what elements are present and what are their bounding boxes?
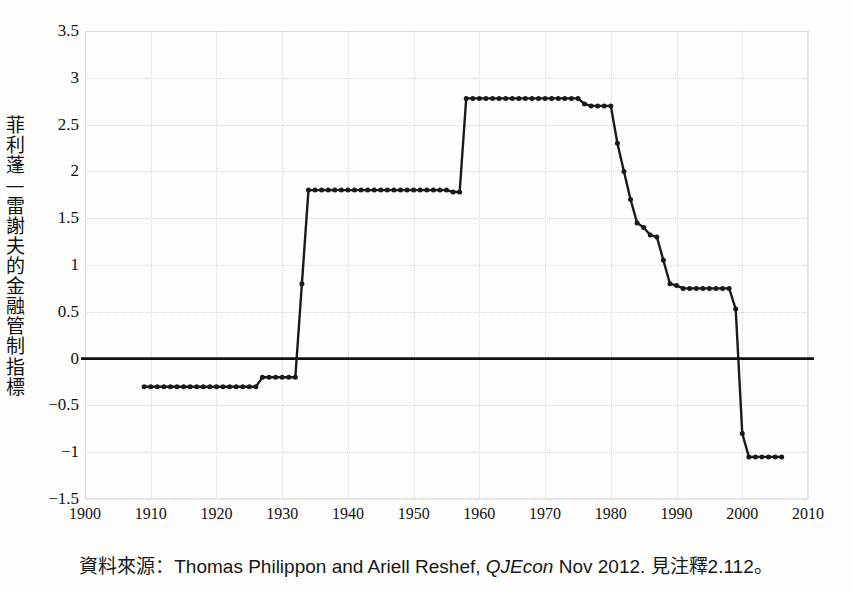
data-point-marker [727,286,732,291]
data-point-marker [667,281,672,286]
data-point-marker [437,188,442,193]
x-tick-label: 2000 [712,505,772,523]
data-point-marker [582,102,587,107]
data-point-marker [411,188,416,193]
data-point-marker [529,96,534,101]
data-point-marker [700,286,705,291]
data-point-marker [267,375,272,380]
y-axis-title: 菲利蓬—雷謝夫的金融管制指標 [2,115,28,397]
data-point-marker [385,188,390,193]
y-tick-label: −1 [33,442,79,462]
series-layer [85,31,808,499]
data-point-marker [759,454,764,459]
data-point-marker [595,103,600,108]
data-point-marker [635,220,640,225]
data-point-marker [766,454,771,459]
data-point-marker [536,96,541,101]
y-tick-label: 0 [33,349,79,369]
data-point-marker [602,103,607,108]
data-point-marker [214,384,219,389]
data-point-marker [260,375,265,380]
data-point-marker [398,188,403,193]
data-point-marker [286,375,291,380]
data-point-marker [319,188,324,193]
data-point-marker [575,96,580,101]
y-tick-labels: 3.532.521.510.50−0.5−1−1.5 [31,31,79,499]
data-point-marker [713,286,718,291]
data-point-marker [148,384,153,389]
data-point-marker [503,96,508,101]
x-tick-label: 1920 [186,505,246,523]
data-point-marker [352,188,357,193]
data-point-marker [556,96,561,101]
data-point-marker [161,384,166,389]
chart-figure: 菲利蓬—雷謝夫的金融管制指標 3.532.521.510.50−0.5−1−1.… [0,0,852,593]
y-tick-label: 3.5 [33,21,79,41]
data-point-marker [247,384,252,389]
data-point-marker [339,188,344,193]
data-point-marker [543,96,548,101]
caption-journal: QJEcon [486,556,554,577]
data-point-marker [608,103,613,108]
data-point-marker [740,431,745,436]
x-tick-label: 1930 [252,505,312,523]
x-tick-label: 2010 [778,505,838,523]
data-point-marker [253,384,258,389]
data-point-marker [746,454,751,459]
data-point-marker [299,281,304,286]
data-point-marker [753,454,758,459]
x-tick-label: 1940 [318,505,378,523]
data-point-marker [378,188,383,193]
data-point-marker [221,384,226,389]
source-caption: 資料來源：Thomas Philippon and Ariell Reshef,… [0,551,852,578]
data-point-marker [181,384,186,389]
data-point-marker [194,384,199,389]
data-point-marker [313,188,318,193]
y-tick-label: 1.5 [33,208,79,228]
data-point-marker [457,189,462,194]
data-point-marker [207,384,212,389]
data-point-marker [326,188,331,193]
data-point-marker [405,188,410,193]
data-point-marker [424,188,429,193]
data-point-marker [549,96,554,101]
data-point-marker [628,197,633,202]
data-point-marker [773,454,778,459]
caption-suffix: Nov 2012. 見注釋2.112。 [553,556,772,577]
y-tick-label: −0.5 [33,395,79,415]
data-point-marker [621,169,626,174]
data-point-marker [332,188,337,193]
data-point-marker [451,189,456,194]
data-point-marker [201,384,206,389]
data-point-marker [720,286,725,291]
plot-area [85,31,808,499]
data-point-marker [168,384,173,389]
x-tick-label: 1900 [55,505,115,523]
data-point-marker [562,96,567,101]
data-point-marker [175,384,180,389]
x-tick-label: 1990 [647,505,707,523]
data-point-marker [227,384,232,389]
data-point-marker [674,283,679,288]
y-tick-label: 2 [33,161,79,181]
data-point-marker [142,384,147,389]
data-point-marker [497,96,502,101]
data-point-marker [523,96,528,101]
data-point-marker [641,225,646,230]
data-point-marker [188,384,193,389]
data-point-marker [431,188,436,193]
data-point-marker [155,384,160,389]
x-tick-label: 1980 [581,505,641,523]
data-point-marker [444,188,449,193]
data-point-marker [306,188,311,193]
data-point-marker [365,188,370,193]
data-point-marker [661,258,666,263]
series-line [144,98,782,456]
data-point-marker [477,96,482,101]
x-tick-label: 1950 [384,505,444,523]
data-point-marker [234,384,239,389]
data-point-marker [240,384,245,389]
data-point-marker [418,188,423,193]
gridline-vertical [808,31,809,499]
data-point-marker [372,188,377,193]
